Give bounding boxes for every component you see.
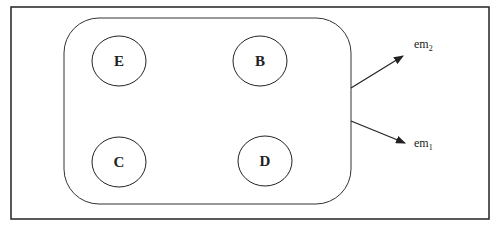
group-box	[64, 18, 351, 204]
node-c-label: C	[114, 154, 125, 170]
node-d: D	[238, 136, 292, 186]
node-c: C	[92, 137, 146, 187]
arrow-em2	[351, 56, 403, 88]
diagram-canvas: E B C D em2 em1	[0, 0, 498, 225]
node-d-label: D	[260, 153, 271, 169]
label-em2: em2	[414, 37, 433, 53]
node-e-label: E	[114, 53, 124, 69]
label-em1: em1	[414, 136, 433, 152]
arrow-em1	[351, 121, 405, 143]
node-b-label: B	[255, 53, 265, 69]
node-e: E	[92, 36, 146, 86]
node-b: B	[233, 36, 287, 86]
